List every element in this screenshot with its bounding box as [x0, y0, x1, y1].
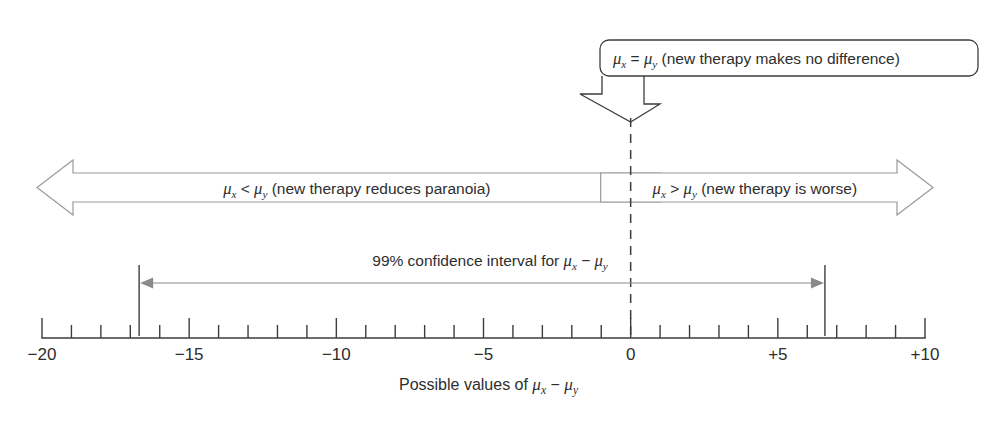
left-band-group: μx < μy (new therapy reduces paranoia) [37, 160, 661, 215]
axis-tick-label: −15 [175, 345, 204, 364]
callout-down-arrow-icon [580, 76, 660, 122]
right-band-label: μx > μy (new therapy is worse) [652, 179, 857, 200]
axis-tick-label: +5 [768, 345, 787, 364]
axis-tick-group [42, 318, 925, 338]
right-band-group: μx > μy (new therapy is worse) [601, 160, 933, 215]
axis-caption: Possible values of μx − μy [399, 375, 579, 397]
axis-tick-label: 0 [626, 345, 635, 364]
axis-tick-label: +10 [911, 345, 940, 364]
axis-tick-label: −5 [474, 345, 493, 364]
null-hypothesis-callout: μx = μy (new therapy makes no difference… [580, 40, 978, 122]
ci-left-arrowhead-icon [140, 278, 153, 289]
figure-canvas: μx = μy (new therapy makes no difference… [0, 0, 1002, 431]
number-line-axis: −20−15−10−50+5+10 [28, 318, 940, 364]
ci-label: 99% confidence interval for μx − μy [372, 251, 608, 272]
axis-tick-label-group: −20−15−10−50+5+10 [28, 345, 940, 364]
axis-tick-label: −20 [28, 345, 57, 364]
confidence-interval-group: 99% confidence interval for μx − μy [139, 251, 825, 336]
axis-tick-label: −10 [322, 345, 351, 364]
statistics-figure: μx = μy (new therapy makes no difference… [0, 0, 1002, 431]
ci-right-arrowhead-icon [811, 278, 824, 289]
left-band-label: μx < μy (new therapy reduces paranoia) [222, 179, 490, 200]
